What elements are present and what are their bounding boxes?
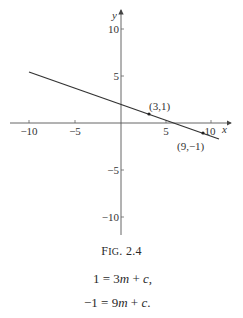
data-point — [201, 131, 204, 134]
x-tick-label: −5 — [69, 125, 81, 137]
y-tick-label: −10 — [102, 211, 120, 223]
line-chart: −10 −5 5 10 10 5 −5 −10 x y (3,1) (9,−1) — [0, 0, 243, 240]
eq-var: m — [120, 271, 129, 286]
data-point — [147, 112, 150, 115]
eq-lhs: −1 — [84, 295, 98, 310]
x-tick-label: 10 — [205, 125, 217, 137]
eq-end: , — [149, 271, 152, 286]
equation-1: 1 = 3m + c, — [93, 271, 152, 287]
x-axis-label: x — [221, 123, 227, 135]
y-axis-label: y — [111, 9, 117, 21]
eq-plus: + — [128, 295, 142, 310]
eq-plus: + — [129, 271, 143, 286]
y-tick-label: 5 — [114, 70, 120, 82]
y-tick-label: −5 — [107, 164, 119, 176]
equation-2: −1 = 9m + c. — [84, 295, 150, 311]
eq-var: m — [118, 295, 127, 310]
point-label: (3,1) — [149, 100, 170, 113]
figure-caption: FIG. 2.4 — [0, 244, 243, 259]
eq-lhs: 1 — [93, 271, 100, 286]
point-label: (9,−1) — [177, 140, 205, 153]
y-tick-label: 10 — [108, 23, 120, 35]
caption-smallcaps: IG — [108, 246, 119, 257]
data-line — [29, 72, 219, 139]
eq-end: . — [147, 295, 150, 310]
x-tick-label: 5 — [163, 125, 169, 137]
x-tick-label: −10 — [20, 125, 38, 137]
caption-number: . 2.4 — [119, 244, 142, 258]
